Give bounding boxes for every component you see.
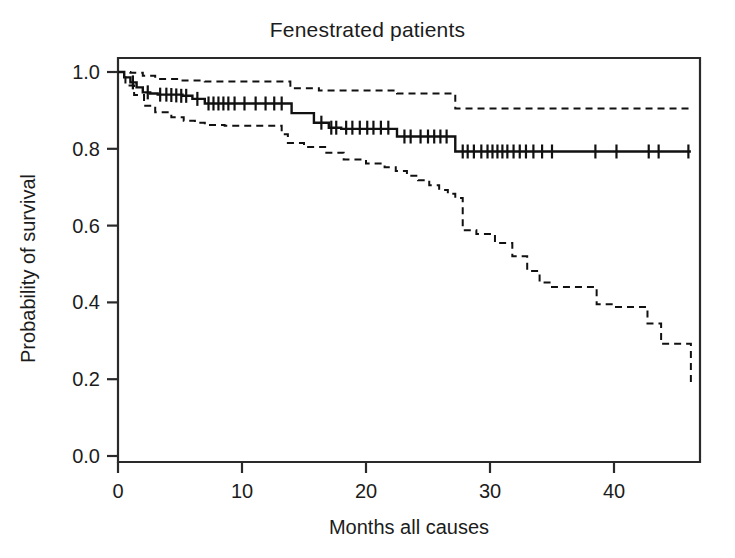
y-tick-label: 0.0: [72, 445, 100, 467]
x-tick-label: 30: [479, 480, 501, 502]
y-tick-label: 0.8: [72, 138, 100, 160]
x-tick-label: 40: [603, 480, 625, 502]
series-lines: [118, 72, 691, 382]
x-tick-label: 10: [231, 480, 253, 502]
plot-area: 0.00.20.40.60.81.0010203040: [0, 0, 735, 558]
axis-box: [118, 58, 700, 462]
y-tick-label: 1.0: [72, 61, 100, 83]
censor-marks: [133, 75, 689, 158]
plot-frame: [118, 58, 700, 462]
y-tick-label: 0.4: [72, 291, 100, 313]
y-tick-label: 0.2: [72, 368, 100, 390]
x-tick-label: 0: [112, 480, 123, 502]
y-tick-label: 0.6: [72, 215, 100, 237]
axis-tick-labels: 0.00.20.40.60.81.0010203040: [72, 61, 625, 502]
kaplan-meier-figure: Fenestrated patients Probability of surv…: [0, 0, 735, 558]
lower-confidence-curve: [118, 72, 691, 382]
x-tick-label: 20: [355, 480, 377, 502]
